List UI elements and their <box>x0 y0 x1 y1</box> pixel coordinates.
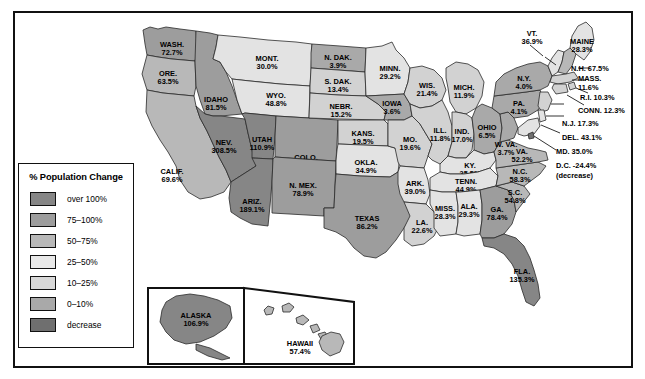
callout-value-vermont: 36.9% <box>522 37 543 46</box>
state-value-utah: 110.9% <box>250 143 275 152</box>
state-value-florida: 135.3% <box>509 275 534 284</box>
state-value-northcarolina: 58.3% <box>510 175 531 184</box>
state-oklahoma[interactable]: OKLA. 34.9% <box>336 144 400 177</box>
legend-label-over100: over 100% <box>67 194 107 204</box>
state-value-minnesota: 29.2% <box>380 72 401 81</box>
legend-label-25-50: 25–50% <box>67 257 98 267</box>
legend-item-75-100: 75–100% <box>19 209 133 230</box>
state-value-arkansas: 39.0% <box>405 187 426 196</box>
legend-panel: % Population Change over 100% 75–100% 50… <box>18 163 134 348</box>
callout-value-dc: (decrease) <box>556 171 594 180</box>
state-value-washington: 72.7% <box>162 48 183 57</box>
legend-label-decrease: decrease <box>67 320 101 330</box>
callout-connecticut: CONN. 12.3% <box>578 106 625 115</box>
state-value-nebraska: 15.2% <box>331 110 352 119</box>
state-value-westvirginia: 3.7% <box>498 148 515 157</box>
legend-item-25-50: 25–50% <box>19 251 133 272</box>
legend-item-50-75: 50–75% <box>19 230 133 251</box>
state-value-missouri: 19.6% <box>400 143 421 152</box>
inset-value-alaska: 106.9% <box>183 319 208 328</box>
callout-delaware: DEL. 43.1% <box>562 133 602 142</box>
state-value-oklahoma: 34.9% <box>356 166 377 175</box>
callout-value-massachusetts: 11.6% <box>578 83 599 92</box>
callout-rhodeisland: R.I. 10.3% <box>580 93 615 102</box>
state-value-wyoming: 48.8% <box>266 99 287 108</box>
state-newjersey[interactable] <box>538 92 552 112</box>
legend-item-decrease: decrease <box>19 314 133 335</box>
state-value-idaho: 81.5% <box>206 103 227 112</box>
state-value-california: 69.6% <box>162 175 183 184</box>
state-value-alabama: 29.3% <box>459 210 480 219</box>
state-florida[interactable]: FLA. 135.3% <box>482 234 540 306</box>
legend-swatch-50-75 <box>30 234 56 248</box>
state-alabama[interactable]: ALA. 29.3% <box>456 190 482 236</box>
legend-item-over100: over 100% <box>19 188 133 209</box>
state-minnesota[interactable]: MINN. 29.2% <box>365 42 410 96</box>
legend-label-10-25: 10–25% <box>67 278 98 288</box>
legend-swatch-10-25 <box>30 276 56 290</box>
state-connecticut[interactable] <box>552 84 568 94</box>
state-value-arizona: 189.1% <box>239 205 264 214</box>
state-value-oregon: 63.5% <box>158 77 179 86</box>
legend-swatch-75-100 <box>30 213 56 227</box>
state-value-maine: 28.3% <box>572 45 593 54</box>
legend-swatch-25-50 <box>30 255 56 269</box>
state-wyoming[interactable]: WYO. 48.8% <box>232 79 310 118</box>
state-value-mississippi: 28.3% <box>435 212 456 221</box>
callout-maryland: MD. 35.0% <box>556 147 593 156</box>
legend-label-75-100: 75–100% <box>67 215 102 225</box>
state-rhodeisland[interactable] <box>568 82 576 90</box>
state-value-iowa: 3.6% <box>384 107 401 116</box>
callout-label-massachusetts: MASS. <box>578 74 601 83</box>
inset-alaska-shape[interactable]: ALASKA 106.9% <box>160 294 232 360</box>
callout-dc: D.C. -24.4% (decrease) <box>556 161 597 180</box>
state-value-montana: 30.0% <box>257 62 278 71</box>
legend-swatch-over100 <box>30 192 56 206</box>
callout-massachusetts: MASS. 11.6% <box>578 74 601 92</box>
inset-hawaii-shape[interactable]: HAWAII 57.4% <box>264 303 344 356</box>
state-delaware[interactable] <box>538 110 546 122</box>
callout-newhampshire: N.H. 67.5% <box>571 64 609 73</box>
state-value-indiana: 17.0% <box>452 135 473 144</box>
population-change-map-figure: WASH. 72.7% ORE. 63.5% CALIF. 69.6% IDAH… <box>0 0 645 379</box>
state-indiana[interactable]: IND. 17.0% <box>448 112 474 158</box>
state-newmexico[interactable]: N. MEX. 78.9% <box>272 157 336 216</box>
state-value-pennsylvania: 4.1% <box>511 107 528 116</box>
legend-label-0-10: 0–10% <box>67 299 93 309</box>
state-value-southdakota: 13.4% <box>328 85 349 94</box>
callout-vermont: VT. 36.9% <box>522 29 543 46</box>
state-value-newyork: 4.0% <box>516 82 533 91</box>
state-southdakota[interactable]: S. DAK. 13.4% <box>310 68 366 96</box>
state-value-louisiana: 22.6% <box>412 226 433 235</box>
callout-newjersey: N.J. 17.3% <box>562 119 599 128</box>
state-value-ohio: 6.5% <box>479 131 496 140</box>
legend-swatch-0-10 <box>30 297 56 311</box>
state-northdakota[interactable]: N. DAK. 3.9% <box>311 44 366 72</box>
state-value-newmexico: 78.9% <box>293 189 314 198</box>
callout-label-dc: D.C. -24.4% <box>556 161 597 170</box>
inset-value-hawaii: 57.4% <box>290 347 311 356</box>
legend-item-0-10: 0–10% <box>19 293 133 314</box>
state-newyork[interactable]: N.Y. 4.0% <box>494 62 552 96</box>
state-value-northdakota: 3.9% <box>330 61 347 70</box>
legend-label-50-75: 50–75% <box>67 236 98 246</box>
legend-swatch-decrease <box>30 318 56 332</box>
state-value-virginia: 52.2% <box>512 155 533 164</box>
state-value-illinois: 11.8% <box>430 134 451 143</box>
state-value-michigan: 11.9% <box>454 91 475 100</box>
state-value-texas: 86.2% <box>357 222 378 231</box>
state-arkansas[interactable]: ARK. 39.0% <box>398 166 430 204</box>
state-kansas[interactable]: KANS. 19.5% <box>338 120 388 146</box>
state-value-wisconsin: 21.4% <box>417 89 438 98</box>
state-value-georgia: 78.4% <box>487 213 508 222</box>
legend-title: % Population Change <box>19 172 133 182</box>
state-value-nevada: 308.5% <box>211 146 236 155</box>
legend-item-10-25: 10–25% <box>19 272 133 293</box>
state-oregon[interactable]: ORE. 63.5% <box>142 55 196 96</box>
state-value-southcarolina: 54.8% <box>505 196 526 205</box>
